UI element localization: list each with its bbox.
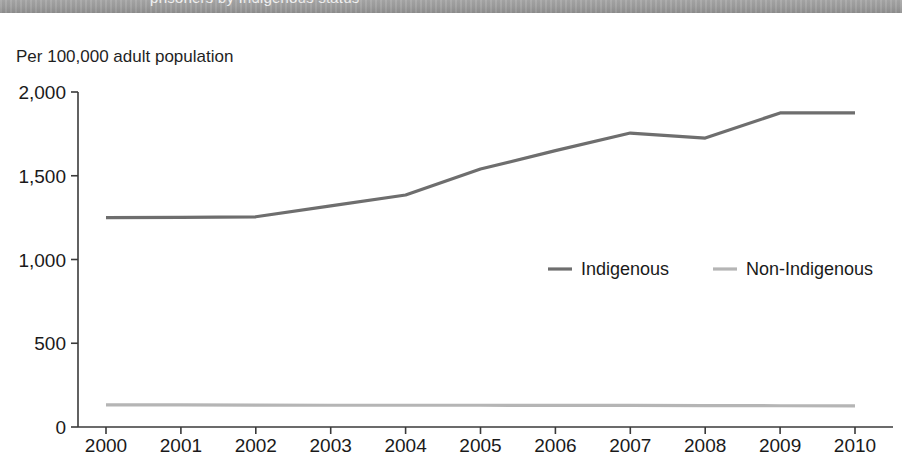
x-axis-tick-label: 2001 <box>160 435 202 455</box>
chart-svg: 05001,0001,5002,000 20002001200220032004… <box>0 0 902 455</box>
x-axis-tick-group: 2000200120022003200420052006200720082009… <box>85 427 876 455</box>
y-axis-tick-label: 0 <box>55 417 66 438</box>
line-chart: 05001,0001,5002,000 20002001200220032004… <box>0 0 902 455</box>
x-axis-tick-label: 2006 <box>534 435 576 455</box>
x-axis-tick-label: 2007 <box>609 435 651 455</box>
legend-label-non-indigenous: Non-Indigenous <box>746 259 873 279</box>
y-axis-tick-label: 1,500 <box>18 166 66 187</box>
x-axis-tick-label: 2005 <box>459 435 501 455</box>
y-axis-tick-label: 2,000 <box>18 82 66 103</box>
legend-label-indigenous: Indigenous <box>581 259 669 279</box>
x-axis-tick-label: 2002 <box>235 435 277 455</box>
y-axis-tick-label: 1,000 <box>18 250 66 271</box>
x-axis-tick-label: 2004 <box>384 435 427 455</box>
chart-legend: IndigenousNon-Indigenous <box>548 259 873 279</box>
series-line-indigenous <box>106 113 855 218</box>
x-axis-tick-label: 2010 <box>834 435 876 455</box>
chart-page: prisoners by Indigenous status Per 100,0… <box>0 0 902 455</box>
x-axis-tick-label: 2003 <box>310 435 352 455</box>
y-axis-tick-group: 05001,0001,5002,000 <box>18 82 78 438</box>
x-axis-tick-label: 2009 <box>759 435 801 455</box>
x-axis-tick-label: 2000 <box>85 435 127 455</box>
x-axis-tick-label: 2008 <box>684 435 726 455</box>
series-line-non-indigenous <box>106 405 855 406</box>
y-axis-tick-label: 500 <box>34 333 66 354</box>
